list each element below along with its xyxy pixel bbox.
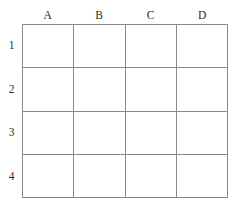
column-header-c-label: C	[147, 10, 155, 22]
cell-a2[interactable]	[23, 68, 74, 111]
table-row	[23, 25, 228, 68]
cell-a3[interactable]	[23, 111, 74, 154]
column-header-b[interactable]: B	[74, 7, 126, 24]
row-label-3[interactable]: 3	[2, 111, 21, 155]
cell-c2[interactable]	[125, 68, 176, 111]
row-label-1[interactable]: 1	[2, 24, 21, 68]
table-row	[23, 154, 228, 197]
cell-d1[interactable]	[176, 25, 227, 68]
cell-b3[interactable]	[74, 111, 125, 154]
cell-b2[interactable]	[74, 68, 125, 111]
row-label-2[interactable]: 2	[2, 68, 21, 112]
grid-table	[22, 24, 228, 198]
cell-c1[interactable]	[125, 25, 176, 68]
cell-b4[interactable]	[74, 154, 125, 197]
table-row	[23, 111, 228, 154]
column-header-row: A B C D	[22, 7, 228, 24]
column-header-b-label: B	[95, 10, 103, 22]
cell-d4[interactable]	[176, 154, 227, 197]
row-label-3-text: 3	[9, 127, 15, 139]
row-label-4[interactable]: 4	[2, 155, 21, 199]
row-label-2-text: 2	[9, 84, 15, 96]
row-label-4-text: 4	[9, 171, 15, 183]
column-header-c[interactable]: C	[125, 7, 177, 24]
cell-b1[interactable]	[74, 25, 125, 68]
cell-a4[interactable]	[23, 154, 74, 197]
column-header-a[interactable]: A	[22, 7, 74, 24]
row-label-column: 1 2 3 4	[2, 24, 21, 198]
cell-c3[interactable]	[125, 111, 176, 154]
table-row	[23, 68, 228, 111]
cell-a1[interactable]	[23, 25, 74, 68]
column-header-a-label: A	[44, 10, 52, 22]
column-header-d[interactable]: D	[177, 7, 229, 24]
column-header-d-label: D	[198, 10, 206, 22]
grid-table-body	[23, 25, 228, 198]
row-label-1-text: 1	[9, 40, 15, 52]
grid-figure: A B C D 1 2 3 4	[0, 0, 240, 208]
cell-d2[interactable]	[176, 68, 227, 111]
cell-d3[interactable]	[176, 111, 227, 154]
cell-c4[interactable]	[125, 154, 176, 197]
